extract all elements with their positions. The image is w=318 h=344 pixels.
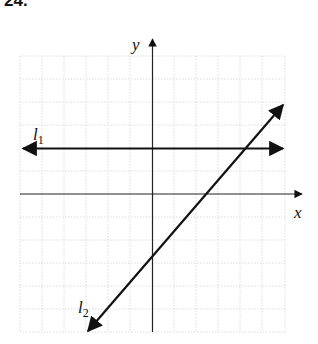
line-l2 [88, 105, 283, 331]
coordinate-graph: y x l1 l2 [0, 0, 318, 344]
l2-label: l2 [78, 298, 89, 320]
x-axis-label: x [293, 203, 302, 222]
y-axis-label: y [130, 35, 140, 54]
